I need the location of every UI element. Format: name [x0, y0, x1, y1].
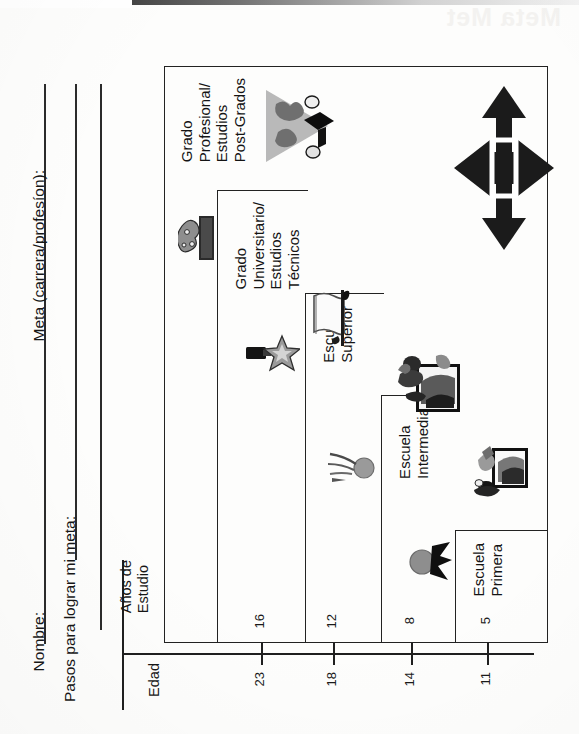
graduation-cap-icon [262, 84, 334, 166]
step-label-grado-universitario: Grado Universitario/ Estudios Técnicos [232, 202, 302, 290]
steps-underline [100, 84, 102, 630]
diploma-scroll-icon [308, 288, 350, 350]
worksheet-page: Meta Met Nombre: Meta (carrera/profesíon… [0, 0, 579, 734]
university-crest-icon [178, 212, 218, 264]
student-at-desk-icon [472, 442, 530, 504]
step-label-grado-profesional: Grado Profesional/ Estudios Post-Grados [178, 78, 248, 162]
age-tick-label: 14 [402, 672, 417, 686]
age-tick-label: 18 [324, 672, 339, 686]
tick-mark [411, 642, 413, 665]
star-award-icon [244, 334, 300, 374]
name-label: Nombre: [30, 612, 48, 671]
age-tick-label: 11 [478, 672, 493, 686]
person-swimming-icon [326, 448, 378, 490]
years-of-study-header: Años de Estudio [118, 560, 152, 613]
step-label-escuela-primera: Escuela Primera [470, 543, 505, 596]
students-reading-icon [396, 348, 462, 418]
goal-label: Meta (carrera/profesíon): [30, 170, 48, 341]
scan-edge-artifact [130, 0, 579, 5]
tick-mark [333, 642, 335, 665]
tick-mark [261, 642, 263, 665]
step-label-escuela-intermedia: Escuela Intermedia [396, 408, 431, 479]
steps-label: Pasos para lograr mi meta: [61, 516, 79, 702]
timeline-axis [122, 653, 534, 655]
name-underline [44, 84, 46, 644]
scan-edge-mask [0, 0, 132, 8]
tick-mark [487, 642, 489, 665]
bleed-through-text: Meta Met [446, 4, 561, 30]
four-direction-arrows-icon [452, 78, 556, 253]
age-header: Edad [146, 663, 163, 697]
goal-underline [75, 84, 77, 560]
age-tick-label: 23 [252, 672, 267, 686]
child-figure-icon [406, 540, 452, 586]
